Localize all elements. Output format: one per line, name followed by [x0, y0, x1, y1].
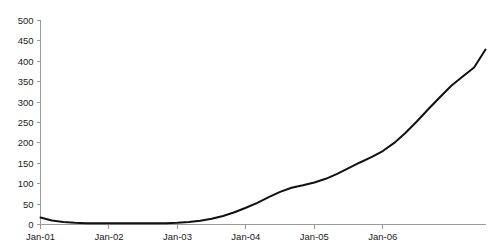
y-tick-label: 200 — [18, 137, 34, 148]
y-tick-label: 150 — [18, 158, 34, 169]
chart-canvas: 050100150200250300350400450500 Jan-01Jan… — [0, 0, 491, 250]
line-chart: 050100150200250300350400450500 Jan-01Jan… — [0, 0, 491, 250]
y-tick-label: 350 — [18, 76, 34, 87]
y-tick-label: 50 — [23, 199, 34, 210]
plot-background — [0, 0, 491, 250]
y-tick-label: 250 — [18, 117, 34, 128]
x-tick-label: Jan-06 — [368, 231, 397, 242]
y-tick-label: 500 — [18, 15, 34, 26]
x-tick-label: Jan-02 — [94, 231, 123, 242]
x-tick-label: Jan-01 — [26, 231, 55, 242]
y-tick-label: 450 — [18, 35, 34, 46]
x-tick-label: Jan-05 — [300, 231, 329, 242]
y-tick-label: 100 — [18, 178, 34, 189]
x-tick-label: Jan-04 — [231, 231, 260, 242]
y-tick-label: 0 — [28, 219, 33, 230]
y-tick-label: 400 — [18, 56, 34, 67]
x-tick-label: Jan-03 — [163, 231, 192, 242]
y-tick-label: 300 — [18, 97, 34, 108]
